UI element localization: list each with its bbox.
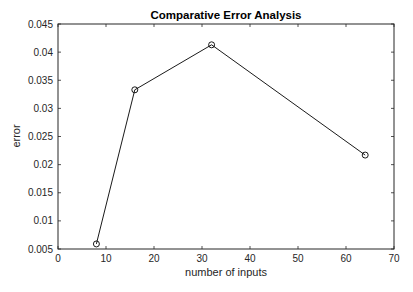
x-axis-label: number of inputs [185,266,267,278]
series-line [96,45,365,244]
y-tick-label: 0.045 [28,19,53,30]
chart-figure: Comparative Error Analysis 0102030405060… [0,0,413,292]
chart-title: Comparative Error Analysis [150,9,301,21]
y-tick-label: 0.02 [34,159,54,170]
x-tick-label: 20 [148,253,160,264]
y-axis-label: error [10,124,22,148]
data-series [93,42,368,247]
y-tick-label: 0.015 [28,187,53,198]
axes-box [58,24,394,249]
y-tick-label: 0.005 [28,244,53,255]
data-point-marker-icon [93,241,99,247]
y-tick-label: 0.025 [28,131,53,142]
x-tick-label: 60 [340,253,352,264]
x-tick-label: 70 [388,253,400,264]
x-tick-label: 0 [55,253,61,264]
x-tick-label: 30 [196,253,208,264]
plot-axes [58,24,394,249]
y-tick-label: 0.04 [34,47,54,58]
x-tick-label: 50 [292,253,304,264]
x-tick-label: 10 [100,253,112,264]
y-tick-label: 0.035 [28,75,53,86]
y-tick-label: 0.03 [34,103,54,114]
y-tick-label: 0.01 [34,215,54,226]
x-tick-label: 40 [244,253,256,264]
x-axis-ticks: 010203040506070 [55,24,400,264]
